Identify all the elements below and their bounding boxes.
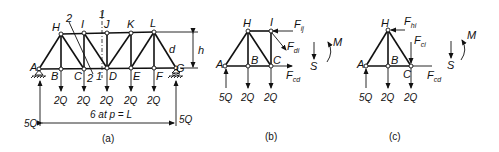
force-fij-label: Fij bbox=[294, 18, 304, 33]
force-arrow-fdi bbox=[272, 33, 286, 50]
section-2-label-bottom: 2 bbox=[86, 72, 93, 84]
height-label: h bbox=[198, 44, 204, 56]
node-label-c: C bbox=[74, 70, 82, 82]
moment-label: M bbox=[333, 36, 343, 48]
load-label: 2Q bbox=[240, 92, 255, 103]
force-fdi-label: Fdi bbox=[287, 40, 300, 54]
figure-a-full-truss: A B C D E F G H I J K L 1 1 2 2 d h 2Q bbox=[24, 8, 204, 144]
moment-arrow bbox=[461, 40, 465, 60]
node-label-k: K bbox=[127, 18, 135, 30]
section-1-label-bottom: 1 bbox=[96, 70, 102, 82]
caption-c: (c) bbox=[389, 131, 401, 142]
node-label-i: I bbox=[81, 18, 84, 30]
node-label-f: F bbox=[156, 70, 164, 82]
force-fcd-label: Fcd bbox=[286, 69, 301, 83]
reaction-left-label: 5Q bbox=[24, 118, 38, 129]
shear-label: S bbox=[447, 59, 455, 71]
section-1-label-top: 1 bbox=[99, 8, 105, 20]
load-label: 2Q bbox=[123, 95, 138, 106]
node-label-a: A bbox=[215, 58, 223, 70]
figure-b-free-body-section-1: A B C H I Fij Fdi Fcd S M 5Q 2Q 2Q (b) bbox=[215, 16, 343, 142]
force-fcd-label: Fcd bbox=[427, 69, 442, 83]
figure-c-free-body-section-2: A B C H Fhi Fci Fcd S M 5Q 2Q 2Q (c) bbox=[356, 15, 477, 142]
node-label-h: H bbox=[52, 21, 60, 33]
caption-a: (a) bbox=[102, 133, 114, 144]
load-label: 5Q bbox=[219, 92, 233, 103]
truss-members-b bbox=[225, 31, 271, 66]
load-label: 2Q bbox=[99, 95, 114, 106]
node-label-b: B bbox=[391, 54, 398, 66]
node-label-l: L bbox=[150, 17, 156, 29]
force-fci-label: Fci bbox=[414, 34, 426, 48]
load-label: 2Q bbox=[76, 95, 91, 106]
load-label: 2Q bbox=[53, 95, 68, 106]
load-label: 2Q bbox=[380, 92, 395, 103]
truss-members-a bbox=[39, 32, 176, 69]
moment-arrow bbox=[327, 42, 331, 62]
node-label-a: A bbox=[356, 58, 364, 70]
node-label-h: H bbox=[381, 17, 389, 29]
moment-label: M bbox=[467, 29, 477, 41]
load-label: 5Q bbox=[359, 92, 373, 103]
node-label-i: I bbox=[270, 16, 273, 28]
node-label-d: D bbox=[109, 70, 117, 82]
truss-members-c bbox=[366, 30, 432, 66]
load-label: 2Q bbox=[263, 92, 278, 103]
shear-label: S bbox=[310, 60, 318, 72]
force-fhi-label: Fhi bbox=[404, 15, 417, 29]
span-label: 6 at p = L bbox=[90, 109, 132, 120]
node-label-c: C bbox=[273, 54, 281, 66]
reaction-right-label: 5Q bbox=[179, 114, 193, 125]
node-label-h: H bbox=[243, 17, 251, 29]
node-label-a: A bbox=[29, 61, 37, 73]
load-arrows-b bbox=[226, 68, 271, 88]
load-label: 2Q bbox=[403, 92, 418, 103]
node-label-b: B bbox=[251, 54, 258, 66]
node-label-c: C bbox=[403, 68, 411, 80]
node-label-b: B bbox=[51, 70, 58, 82]
truss-figure: A B C D E F G H I J K L 1 1 2 2 d h 2Q bbox=[0, 0, 499, 152]
member-d-label: d bbox=[169, 43, 176, 55]
caption-b: (b) bbox=[265, 131, 277, 142]
node-label-e: E bbox=[133, 70, 141, 82]
load-label: 2Q bbox=[146, 95, 161, 106]
section-2-label-top: 2 bbox=[65, 12, 72, 24]
